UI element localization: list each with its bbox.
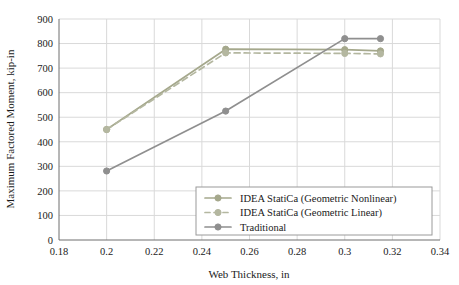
x-tick-label: 0.22 [145, 246, 163, 257]
chart-canvas: 0100200300400500600700800900 0.180.20.22… [0, 0, 459, 285]
y-tick-label: 700 [37, 63, 53, 74]
legend-marker [215, 209, 221, 215]
x-axis-title: Web Thickness, in [208, 268, 290, 280]
y-tick-label: 0 [48, 235, 53, 246]
x-tick-label: 0.3 [338, 246, 351, 257]
x-tick-label: 0.2 [100, 246, 113, 257]
y-tick-label: 800 [37, 38, 53, 49]
x-tick-label: 0.32 [383, 246, 401, 257]
y-axis-title: Maximum Factored Moment, kip-in [4, 49, 16, 208]
y-tick-label: 200 [37, 186, 53, 197]
y-tick-label: 500 [37, 112, 53, 123]
data-point [377, 51, 383, 57]
data-point [342, 50, 348, 56]
y-tick-label: 100 [37, 210, 53, 221]
data-point [104, 168, 110, 174]
legend-label: IDEA StatiCa (Geometric Linear) [240, 207, 382, 219]
chart-figure: 0100200300400500600700800900 0.180.20.22… [0, 0, 459, 285]
data-point [377, 36, 383, 42]
legend-label: IDEA StatiCa (Geometric Nonlinear) [240, 193, 397, 205]
data-point [342, 36, 348, 42]
x-tick-label: 0.28 [288, 246, 306, 257]
legend-marker [215, 195, 221, 201]
legend-marker [215, 224, 221, 230]
x-tick-label: 0.26 [240, 246, 258, 257]
data-point [223, 108, 229, 114]
x-tick-label: 0.34 [431, 246, 450, 257]
y-tick-label: 300 [37, 161, 53, 172]
legend-label: Traditional [240, 222, 286, 233]
data-point [223, 50, 229, 56]
x-tick-label: 0.18 [50, 246, 68, 257]
y-tick-label: 400 [37, 137, 53, 148]
y-axis-tick-labels: 0100200300400500600700800900 [37, 14, 53, 246]
y-tick-label: 600 [37, 87, 53, 98]
x-tick-label: 0.24 [193, 246, 212, 257]
data-point [104, 126, 110, 132]
x-axis-tick-labels: 0.180.20.220.240.260.280.30.320.34 [50, 246, 450, 257]
y-tick-label: 900 [37, 14, 53, 25]
